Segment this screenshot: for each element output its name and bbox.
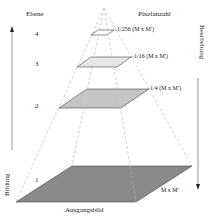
left-axis-label: Bildung	[4, 173, 11, 196]
base-image-label: Ausgangsbild	[65, 207, 104, 214]
level-number-3: 3	[35, 61, 39, 68]
level-number-1: 1	[35, 177, 39, 184]
left-arrow-icon	[10, 26, 14, 150]
level-1-plane	[16, 166, 192, 202]
image-pyramid-diagram: Ebene Pixelanzahl 4 3 2 1 1/256 (M x M')…	[0, 0, 210, 218]
level-2-pixel-label: 1/4 (M x M')	[150, 85, 181, 91]
level-column-title: Ebene	[26, 11, 44, 18]
pixel-count-column-title: Pixelanzahl	[138, 11, 171, 18]
level-4-pixel-label: 1/256 (M x M')	[117, 26, 154, 32]
level-number-2: 2	[35, 103, 39, 110]
level-3-pixel-label: 1/16 (M x M')	[134, 53, 168, 59]
right-arrow-icon	[196, 78, 200, 190]
level-1-pixel-label: M x M'	[161, 187, 179, 193]
right-axis-label: Bearbeitung	[198, 25, 205, 59]
pyramid-graphic	[0, 0, 210, 218]
level-3-plane	[77, 57, 131, 67]
level-number-4: 4	[35, 31, 39, 38]
level-4-plane	[91, 30, 114, 35]
level-2-plane	[59, 89, 149, 108]
